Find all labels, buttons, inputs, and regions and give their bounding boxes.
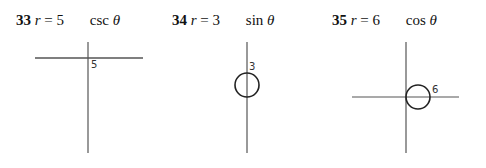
theta-symbol: θ — [267, 12, 274, 28]
coefficient: 3 — [213, 12, 221, 28]
equals-sign: = — [41, 12, 57, 28]
trig-function: sin — [246, 12, 264, 28]
problem-35-title: 35 r = 6 cos θ — [332, 12, 437, 29]
graph-35: 6 — [352, 42, 459, 153]
theta-symbol: θ — [430, 12, 437, 28]
problem-number: 34 — [172, 12, 187, 28]
trig-function: csc — [90, 12, 109, 28]
coefficient: 5 — [57, 12, 65, 28]
graph-label-5: 5 — [91, 59, 97, 70]
equals-sign: = — [357, 12, 373, 28]
problem-number: 35 — [332, 12, 347, 28]
theta-symbol: θ — [113, 12, 120, 28]
coefficient: 6 — [373, 12, 381, 28]
equals-sign: = — [197, 12, 213, 28]
graph-label-3: 3 — [249, 61, 255, 72]
graph-label-6: 6 — [432, 84, 438, 95]
problem-33-title: 33 r = 5 csc θ — [16, 12, 120, 29]
graph-33: 5 — [35, 42, 143, 153]
problem-number: 33 — [16, 12, 31, 28]
trig-function: cos — [406, 12, 426, 28]
graph-34: 3 — [235, 42, 259, 153]
problem-34-title: 34 r = 3 sin θ — [172, 12, 274, 29]
